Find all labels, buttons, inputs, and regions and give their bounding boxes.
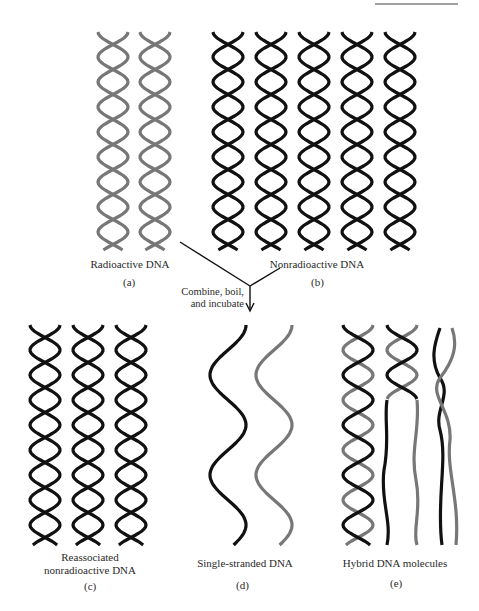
step-line-1: Combine, boil, xyxy=(160,286,244,298)
caption-hybrid-dna: Hybrid DNA molecules xyxy=(335,557,455,570)
panel-c-helices xyxy=(30,325,146,545)
dna-strand xyxy=(256,325,292,545)
caption-reassociated: Reassociated nonradioactive DNA xyxy=(30,551,150,577)
caption-reassociated-line-2: nonradioactive DNA xyxy=(30,564,150,577)
dna-strand xyxy=(387,325,417,399)
dna-strand xyxy=(414,400,418,545)
step-instruction: Combine, boil, and incubate xyxy=(160,286,244,310)
panel-label-a: (a) xyxy=(123,276,135,289)
panel-label-b: (b) xyxy=(311,276,324,289)
dna-strand xyxy=(383,400,388,545)
dna-strand xyxy=(210,325,246,545)
dna-strand xyxy=(434,328,444,545)
panel-a-helices xyxy=(98,32,170,250)
caption-single-stranded-dna: Single-stranded DNA xyxy=(190,557,300,570)
panel-d-strands xyxy=(210,325,292,545)
caption-reassociated-line-1: Reassociated xyxy=(30,551,150,564)
panel-e-hybrids xyxy=(343,325,457,545)
panel-label-d: (d) xyxy=(236,579,249,592)
step-line-2: and incubate xyxy=(160,298,244,310)
panel-label-e: (e) xyxy=(390,577,402,590)
caption-radioactive-dna: Radioactive DNA xyxy=(80,258,180,271)
caption-nonradioactive-dna: Nonradioactive DNA xyxy=(262,258,372,271)
panel-b-helices xyxy=(213,32,415,250)
panel-label-c: (c) xyxy=(84,580,96,593)
